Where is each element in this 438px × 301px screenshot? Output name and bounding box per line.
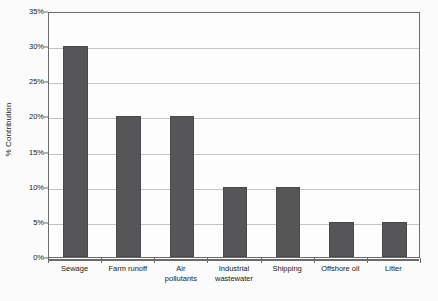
y-axis-tick-label: 30% <box>0 43 44 51</box>
y-axis-tick-label: 0% <box>0 254 44 262</box>
bar <box>116 116 140 257</box>
x-axis-category-label: Industrial wastewater <box>207 264 260 283</box>
x-axis-category-label: Farm runoff <box>101 264 154 274</box>
x-axis-tick-mark <box>48 258 49 263</box>
y-axis-tick-label: 5% <box>0 219 44 227</box>
bar <box>63 46 87 257</box>
gridline <box>49 154 419 155</box>
x-axis-tick-mark <box>261 258 262 263</box>
y-axis-tick-label: 10% <box>0 184 44 192</box>
x-axis-tick-mark <box>101 258 102 263</box>
x-axis-tick-mark <box>420 258 421 263</box>
x-axis-category-label: Litter <box>367 264 420 274</box>
x-axis-category-label: Sewage <box>48 264 101 274</box>
y-axis-tick-label: 20% <box>0 114 44 122</box>
bar <box>382 222 406 257</box>
bar <box>223 187 247 257</box>
bar <box>329 222 353 257</box>
x-axis-tick-mark <box>367 258 368 263</box>
axis-baseline <box>49 259 419 261</box>
y-axis-tick-label: 15% <box>0 149 44 157</box>
bar <box>170 116 194 257</box>
y-axis-tick-label: 25% <box>0 79 44 87</box>
gridline <box>49 83 419 84</box>
gridline <box>49 118 419 119</box>
x-axis-tick-mark <box>154 258 155 263</box>
bar <box>276 187 300 257</box>
plot-area <box>48 12 420 258</box>
bar-chart-figure: % Contribution 0%5%10%15%20%25%30%35% Se… <box>0 0 438 301</box>
x-axis-category-label: Shipping <box>261 264 314 274</box>
x-axis-category-label: Air pollutants <box>154 264 207 283</box>
gridline <box>49 48 419 49</box>
x-axis-tick-mark <box>314 258 315 263</box>
x-axis-tick-mark <box>207 258 208 263</box>
x-axis-category-label: Offshore oil <box>314 264 367 274</box>
y-axis-tick-label: 35% <box>0 8 44 16</box>
